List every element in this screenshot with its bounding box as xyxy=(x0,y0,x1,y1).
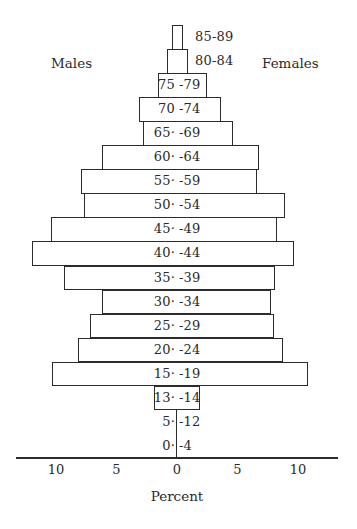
population-pyramid-chart: 85-8980-8475-7970-7465·-6960·-6455·-5950… xyxy=(0,0,357,529)
age-group-label: 80-84 xyxy=(195,53,233,68)
x-tick-label: 5 xyxy=(112,462,120,477)
males-label: Males xyxy=(51,55,92,71)
x-tick-label: 10 xyxy=(48,462,65,477)
bar-80-84 xyxy=(167,49,188,74)
age-group-label: 85-89 xyxy=(195,29,233,44)
bar-85-89 xyxy=(172,25,183,50)
x-axis-label: Percent xyxy=(151,488,204,504)
x-tick-label: 5 xyxy=(233,462,241,477)
x-axis-line xyxy=(16,457,338,459)
x-tick-label: 0 xyxy=(173,462,181,477)
females-label: Females xyxy=(262,55,319,71)
x-tick-label: 10 xyxy=(290,462,307,477)
